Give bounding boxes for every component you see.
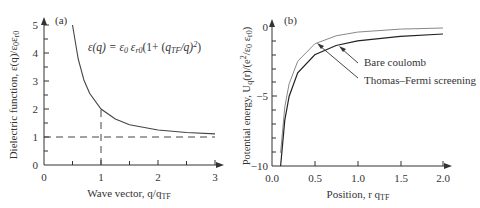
svg-text:2: 2 bbox=[33, 103, 39, 115]
b-x-tick-labels: 0.0 0.5 1.0 1.5 2.0 bbox=[265, 172, 450, 184]
b-y-tick-labels: 0 −5 −10 bbox=[251, 21, 269, 172]
a-x-ticks bbox=[73, 160, 216, 165]
panel-a: 0 1 2 3 0 1 2 3 4 5 (a) ε(q) = ε0 εr0(1+… bbox=[7, 14, 224, 201]
svg-text:0: 0 bbox=[41, 171, 47, 183]
svg-text:1.5: 1.5 bbox=[394, 172, 408, 184]
legend-thomas-fermi: Thomas–Fermi screening bbox=[364, 74, 477, 86]
svg-text:3: 3 bbox=[212, 171, 218, 183]
b-x-axis-label: Position, r qTF bbox=[327, 188, 390, 202]
svg-text:−5: −5 bbox=[256, 90, 268, 102]
svg-text:−10: −10 bbox=[251, 160, 269, 172]
a-formula: ε(q) = ε0 εr0(1+ (qTF/q)2) bbox=[88, 40, 201, 55]
b-x-ticks bbox=[315, 161, 443, 166]
svg-text:1.0: 1.0 bbox=[351, 172, 365, 184]
legend-bare-coulomb: Bare coulomb bbox=[364, 56, 427, 68]
thomas-fermi-pointer bbox=[320, 46, 358, 78]
a-panel-label: (a) bbox=[55, 14, 68, 27]
b-x-arrow-icon bbox=[444, 163, 452, 169]
svg-text:0.5: 0.5 bbox=[308, 172, 322, 184]
svg-text:0: 0 bbox=[263, 21, 269, 33]
svg-text:1: 1 bbox=[33, 131, 39, 143]
a-y-arrow-icon bbox=[41, 17, 47, 25]
b-y-ticks bbox=[272, 41, 277, 152]
a-x-arrow-icon bbox=[216, 162, 224, 168]
svg-text:0: 0 bbox=[33, 159, 39, 171]
b-y-axis-label: Potential energy, Uq(r)/(e2/ε0 εr0) bbox=[239, 26, 254, 165]
b-thomas-fermi-curve bbox=[281, 28, 443, 153]
bare-coulomb-pointer bbox=[342, 49, 358, 63]
svg-text:2: 2 bbox=[155, 171, 161, 183]
svg-text:2.0: 2.0 bbox=[436, 172, 450, 184]
svg-text:1: 1 bbox=[98, 171, 104, 183]
a-y-ticks bbox=[44, 25, 49, 151]
panel-b: 0.0 0.5 1.0 1.5 2.0 0 −5 −10 Bare coulom… bbox=[239, 14, 477, 202]
b-panel-label: (b) bbox=[284, 14, 297, 27]
a-y-tick-labels: 0 1 2 3 4 5 bbox=[33, 19, 39, 171]
svg-text:0.0: 0.0 bbox=[265, 172, 279, 184]
svg-text:5: 5 bbox=[33, 19, 39, 31]
b-y-arrow-icon bbox=[269, 19, 275, 27]
svg-text:3: 3 bbox=[33, 75, 39, 87]
a-x-axis-label: Wave vector, q/qTF bbox=[87, 187, 171, 201]
figure: 0 1 2 3 0 1 2 3 4 5 (a) ε(q) = ε0 εr0(1+… bbox=[0, 0, 480, 208]
svg-text:4: 4 bbox=[33, 47, 39, 59]
a-x-tick-labels: 0 1 2 3 bbox=[41, 171, 218, 183]
a-y-axis-label: Dielectric function, ε(q)/ε0εr0 bbox=[7, 31, 21, 160]
